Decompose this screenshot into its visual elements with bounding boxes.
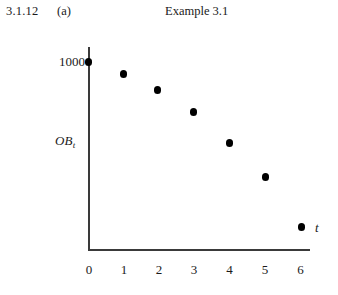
x-tick-label: 6 [297,262,304,278]
y-axis-line [88,47,90,251]
data-point-marker [226,139,234,147]
x-tick-label: 3 [191,262,198,278]
scatter-plot: 1000 0123456 OBt t [0,0,338,295]
x-tick-label: 2 [156,262,163,278]
data-point-marker [154,86,162,94]
x-tick-label: 5 [262,262,269,278]
y-tick-label: 1000 [59,54,85,70]
x-axis-label: t [315,220,319,236]
x-tick-label: 4 [226,262,233,278]
figure-3-1-12a: 3.1.12 (a) Example 3.1 1000 0123456 OBt … [0,0,338,295]
data-point-marker [298,223,306,231]
data-point-marker [262,173,270,181]
data-point-marker [190,108,198,116]
data-point-marker [120,70,128,78]
y-axis-label: OBt [55,133,75,149]
y-axis-label-base: OB [55,133,72,148]
x-tick-label: 1 [121,262,128,278]
data-point-marker [85,58,93,66]
y-axis-label-subscript: t [73,140,76,150]
x-axis-line [88,249,310,251]
x-tick-label: 0 [86,262,93,278]
